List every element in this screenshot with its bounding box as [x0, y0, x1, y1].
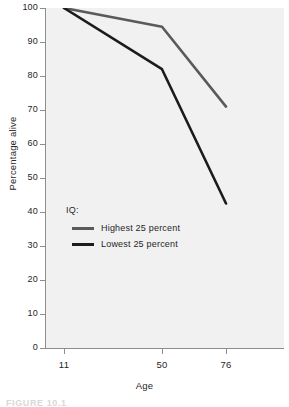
- plot-area: [46, 8, 284, 348]
- y-tick-mark: [40, 246, 45, 247]
- y-tick-mark: [40, 348, 45, 349]
- y-tick-label: 40: [28, 207, 38, 216]
- y-tick-mark: [40, 178, 45, 179]
- y-tick-label: 80: [28, 71, 38, 80]
- y-tick-label: 10: [28, 309, 38, 318]
- x-tick-mark: [226, 349, 227, 354]
- y-tick-label: 0: [33, 343, 38, 352]
- legend-swatch-highest: [72, 227, 94, 230]
- x-tick-mark: [162, 349, 163, 354]
- y-tick-mark: [40, 280, 45, 281]
- y-tick-label: 30: [28, 241, 38, 250]
- series-lines: [64, 8, 226, 204]
- y-tick-label: 90: [28, 37, 38, 46]
- legend-swatch-lowest: [72, 243, 94, 246]
- y-tick-mark: [40, 76, 45, 77]
- x-tick-label: 50: [157, 360, 168, 370]
- y-tick-mark: [40, 314, 45, 315]
- chart-legend: IQ: Highest 25 percent Lowest 25 percent: [66, 205, 180, 249]
- y-tick-mark: [40, 212, 45, 213]
- y-tick-label: 50: [28, 173, 38, 182]
- x-axis-line: [45, 348, 284, 349]
- legend-item-highest: Highest 25 percent: [72, 223, 180, 233]
- x-tick-label: 11: [59, 360, 69, 370]
- figure-caption: FIGURE 10.1: [6, 398, 67, 407]
- figure-container: 1009080706050403020100 115076 Percentage…: [0, 0, 289, 407]
- y-tick-label: 20: [28, 275, 38, 284]
- y-tick-label: 100: [22, 3, 38, 12]
- x-tick-label: 76: [221, 360, 232, 370]
- y-axis-title: Percentage alive: [7, 94, 18, 214]
- x-axis-title: Age: [0, 380, 289, 391]
- legend-title: IQ:: [66, 205, 180, 215]
- y-tick-mark: [40, 110, 45, 111]
- legend-label-lowest: Lowest 25 percent: [101, 239, 178, 249]
- series-line-lowest: [64, 8, 226, 204]
- plot-svg: [46, 8, 284, 348]
- x-tick-mark: [64, 349, 65, 354]
- y-axis-line: [45, 8, 46, 349]
- y-tick-mark: [40, 144, 45, 145]
- legend-label-highest: Highest 25 percent: [101, 223, 180, 233]
- legend-item-lowest: Lowest 25 percent: [72, 239, 180, 249]
- y-tick-label: 70: [28, 105, 38, 114]
- y-tick-mark: [40, 42, 45, 43]
- y-tick-mark: [40, 8, 45, 9]
- y-tick-label: 60: [28, 139, 38, 148]
